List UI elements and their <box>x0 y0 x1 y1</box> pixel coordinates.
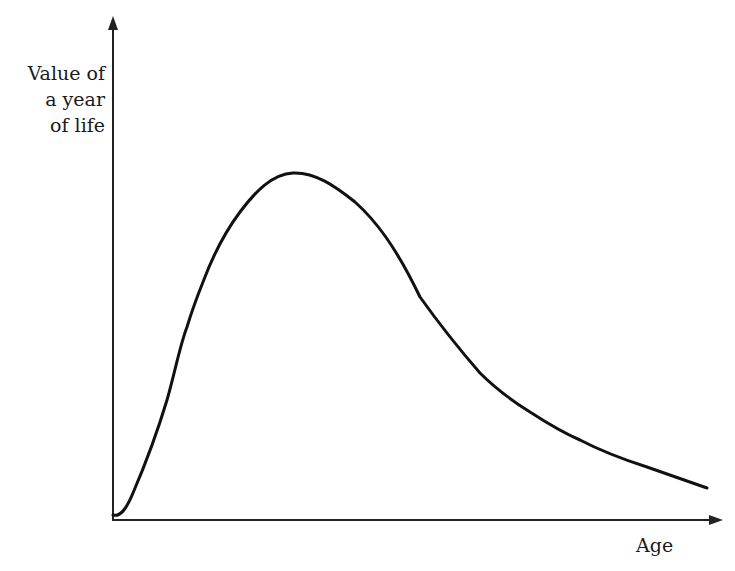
y-axis-label-line: Value of <box>28 60 105 86</box>
value-curve <box>113 173 707 515</box>
y-axis <box>108 16 118 521</box>
x-axis-arrow-icon <box>709 515 723 525</box>
x-axis <box>112 515 723 525</box>
x-axis-label: Age <box>636 534 673 556</box>
y-axis-arrow-icon <box>108 16 118 30</box>
y-axis-label-line: of life <box>28 112 105 138</box>
chart <box>0 0 735 571</box>
y-axis-label-line: a year <box>28 86 105 112</box>
y-axis-label: Value of a year of life <box>28 60 105 138</box>
